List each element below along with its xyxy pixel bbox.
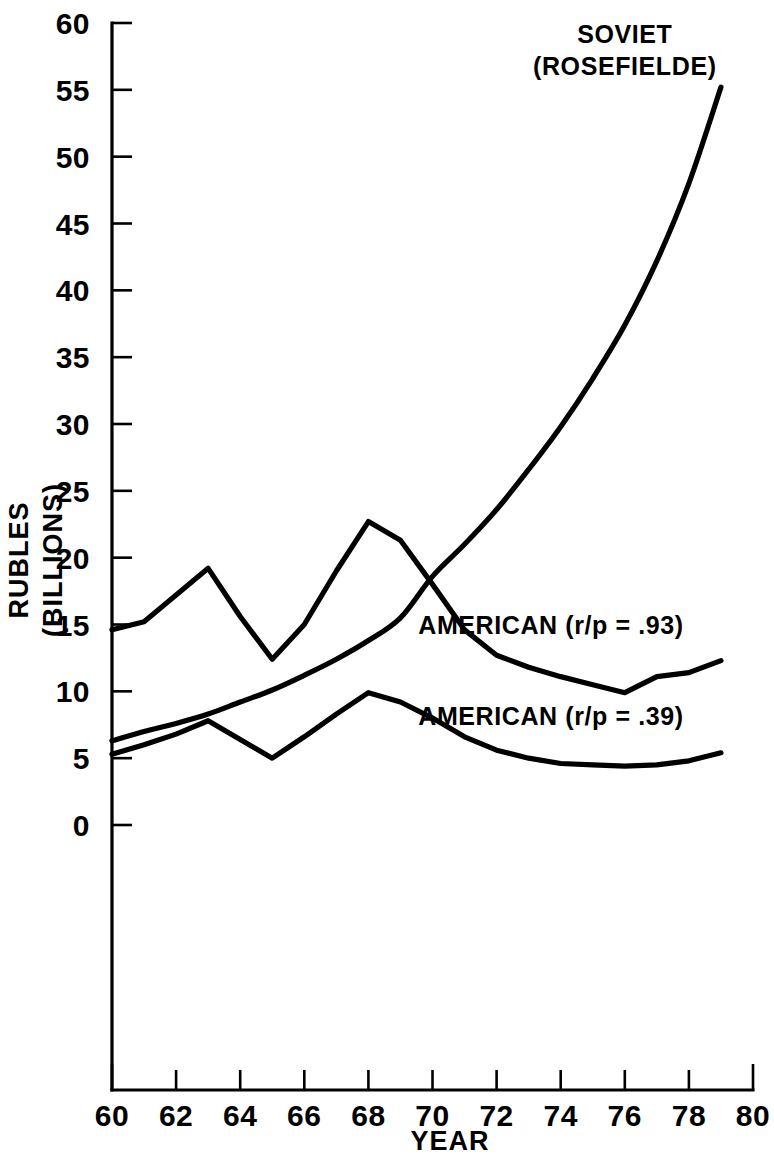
- american-39-label: AMERICAN (r/p = .39): [418, 702, 684, 730]
- x-tick-label: 74: [544, 1099, 578, 1132]
- y-tick-label: 55: [56, 74, 90, 107]
- x-axis-ticks: [112, 1064, 753, 1090]
- x-axis: 6062646668707274767880: [95, 1064, 770, 1132]
- y-tick-label: 50: [56, 141, 90, 174]
- x-tick-label: 76: [608, 1099, 642, 1132]
- series-lines: [112, 87, 721, 766]
- y-axis-title-line1: RUBLES: [4, 501, 34, 618]
- soviet-label-line1: SOVIET: [577, 20, 672, 48]
- x-tick-label: 78: [672, 1099, 706, 1132]
- y-tick-label: 0: [73, 809, 90, 842]
- series-line-0: [112, 87, 721, 741]
- x-tick-label: 64: [223, 1099, 257, 1132]
- x-tick-label: 66: [287, 1099, 321, 1132]
- y-axis-tick-labels: 051015202530354045505560: [56, 7, 90, 842]
- soviet-label-line2: (ROSEFIELDE): [533, 52, 717, 80]
- y-tick-label: 40: [56, 274, 90, 307]
- series-annotation-soviet: SOVIET (ROSEFIELDE): [533, 20, 717, 80]
- series-line-1: [112, 522, 721, 693]
- y-axis-title-line2: (BILLIONS): [38, 483, 68, 637]
- x-tick-label: 60: [95, 1099, 129, 1132]
- y-tick-label: 60: [56, 7, 90, 40]
- y-axis-ticks: [112, 23, 132, 825]
- american-93-label: AMERICAN (r/p = .93): [418, 611, 684, 639]
- y-axis-title: RUBLES (BILLIONS): [4, 483, 68, 637]
- y-tick-label: 5: [73, 742, 90, 775]
- y-tick-label: 45: [56, 208, 90, 241]
- y-tick-label: 30: [56, 408, 90, 441]
- x-tick-label: 62: [159, 1099, 193, 1132]
- x-axis-title: YEAR: [410, 1126, 489, 1156]
- x-tick-label: 80: [736, 1099, 770, 1132]
- y-tick-label: 35: [56, 341, 90, 374]
- line-chart: 051015202530354045505560 606264666870727…: [0, 0, 774, 1158]
- x-tick-label: 68: [351, 1099, 385, 1132]
- chart-container: 051015202530354045505560 606264666870727…: [0, 0, 774, 1158]
- y-tick-label: 10: [56, 675, 90, 708]
